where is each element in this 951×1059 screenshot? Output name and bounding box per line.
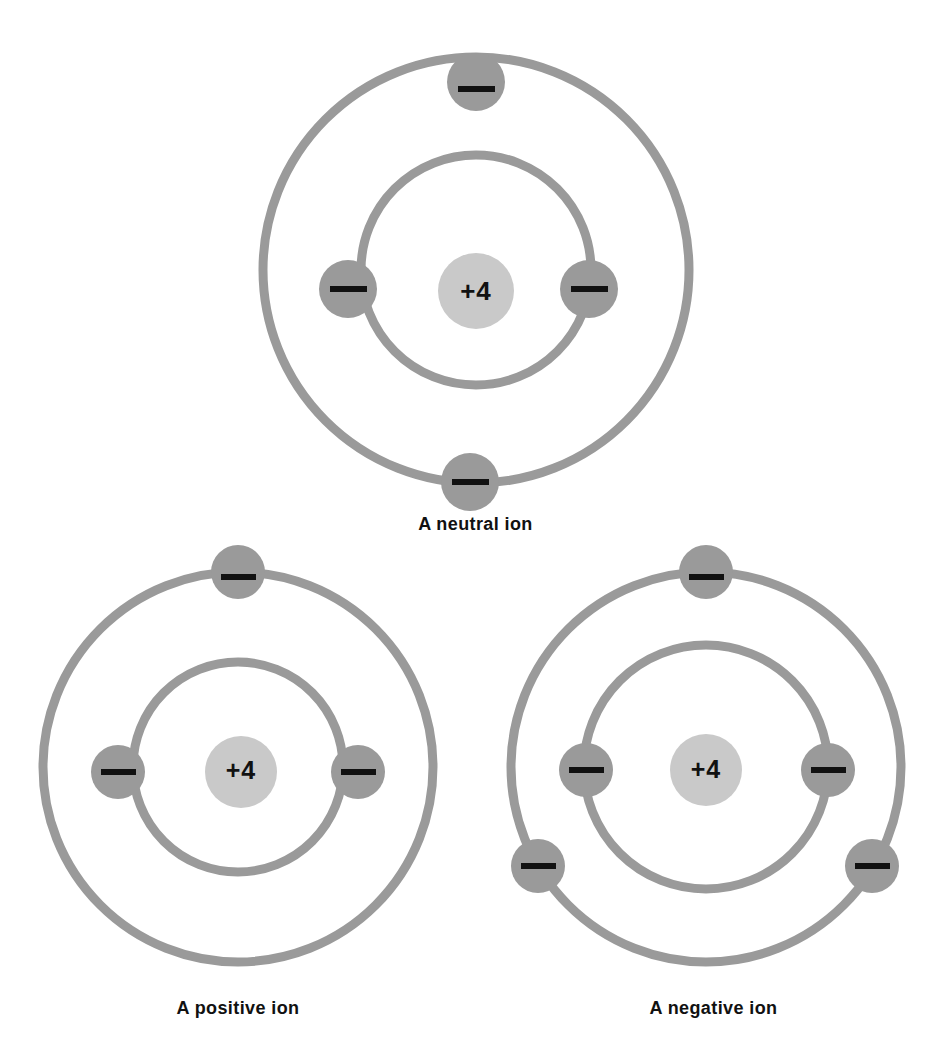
diagram-positive-ion: +4	[43, 545, 433, 962]
minus-sign-icon	[571, 286, 608, 292]
minus-sign-icon	[330, 286, 367, 292]
negative-electron-lower-right	[845, 839, 899, 893]
caption-positive-ion: A positive ion	[0, 998, 476, 1019]
minus-sign-icon	[341, 769, 376, 775]
minus-sign-icon	[101, 769, 136, 775]
minus-sign-icon	[569, 767, 604, 773]
caption-neutral-ion: A neutral ion	[0, 514, 951, 535]
minus-sign-icon	[458, 86, 495, 92]
minus-sign-icon	[811, 767, 846, 773]
negative-electron-left	[559, 743, 613, 797]
diagram-neutral-ion: +4	[263, 53, 689, 511]
minus-sign-icon	[221, 574, 256, 580]
neutral-nucleus-label: +4	[460, 276, 492, 306]
neutral-electron-top	[447, 53, 505, 111]
positive-electron-left	[91, 745, 145, 799]
neutral-electron-right	[560, 260, 618, 318]
diagram-negative-ion: +4	[511, 545, 901, 962]
minus-sign-icon	[689, 574, 724, 580]
minus-sign-icon	[452, 479, 489, 485]
negative-electron-right	[801, 743, 855, 797]
neutral-electron-bottom	[441, 453, 499, 511]
positive-electron-right	[331, 745, 385, 799]
electron-circle	[211, 545, 265, 599]
ion-diagram-figure: +4 +4	[0, 0, 951, 1059]
electron-circle	[679, 545, 733, 599]
minus-sign-icon	[855, 863, 890, 869]
negative-electron-lower-left	[511, 839, 565, 893]
neutral-electron-left	[319, 260, 377, 318]
minus-sign-icon	[521, 863, 556, 869]
positive-nucleus-label: +4	[226, 756, 257, 784]
caption-negative-ion: A negative ion	[476, 998, 951, 1019]
negative-nucleus-label: +4	[691, 755, 722, 783]
positive-electron-top	[211, 545, 265, 599]
negative-electron-top	[679, 545, 733, 599]
electron-circle	[447, 53, 505, 111]
